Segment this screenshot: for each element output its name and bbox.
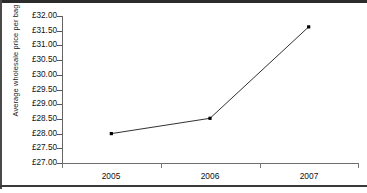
series-plot [0, 0, 367, 193]
data-point-marker [110, 132, 113, 135]
data-point-marker [208, 117, 211, 120]
series-markers [110, 25, 311, 135]
data-point-marker [307, 25, 310, 28]
chart-screenshot: Average wholesale price per bag £32.00 £… [0, 0, 367, 193]
line-chart: Average wholesale price per bag £32.00 £… [0, 0, 367, 193]
